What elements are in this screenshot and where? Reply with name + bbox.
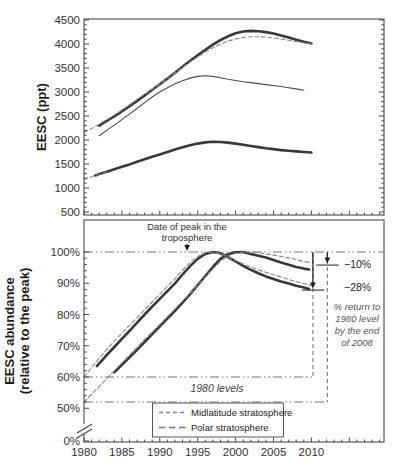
bottom-y-tick-label: 80% bbox=[57, 309, 80, 321]
top-y-tick-label: 2500 bbox=[54, 110, 80, 122]
top-y-tick-label: 1500 bbox=[54, 158, 80, 170]
return-note-line4: of 2008 bbox=[341, 337, 373, 348]
series-polar-stratosphere-dashed bbox=[84, 252, 311, 402]
top-y-tick-label: 3500 bbox=[54, 62, 80, 74]
top-y-axis-title: EESC (ppt) bbox=[34, 83, 49, 151]
drop-polar-label: −10% bbox=[344, 258, 371, 270]
series-midlatitude-stratosphere-dashed bbox=[84, 252, 311, 377]
date-of-peak-arrow-head bbox=[184, 245, 190, 251]
date-of-peak-annotation-line2: troposphere bbox=[162, 232, 213, 243]
bottom-panel-curves bbox=[84, 252, 311, 402]
series-polar-stratosphere-solid bbox=[114, 252, 309, 372]
bottom-y-tick-label: 100% bbox=[51, 246, 80, 258]
bottom-y-tick-label: 60% bbox=[57, 371, 80, 383]
legend-label-midlatitude: Midlatitude stratosphere bbox=[191, 407, 292, 418]
series-polar-stratosphere-dashed bbox=[84, 37, 311, 133]
drop-midlatitude-label: −28% bbox=[344, 281, 371, 293]
bottom-panel-annotations bbox=[184, 244, 339, 402]
eesc-figure: 5001000150020002500300035004000450050%60… bbox=[0, 0, 401, 475]
x-tick-label: 2000 bbox=[223, 446, 249, 458]
drop-arrow-polar-head bbox=[325, 258, 331, 264]
x-tick-label: 1990 bbox=[147, 446, 173, 458]
x-tick-label: 2010 bbox=[299, 446, 325, 458]
top-y-tick-label: 3000 bbox=[54, 86, 80, 98]
top-y-tick-label: 2000 bbox=[54, 134, 80, 146]
return-note-line1: % return to bbox=[334, 301, 380, 312]
return-note-line3: by the end bbox=[335, 325, 380, 336]
top-y-tick-label: 4000 bbox=[54, 38, 80, 50]
series-polar-stratosphere-solid bbox=[99, 31, 311, 126]
return-note-line2: 1980 level bbox=[335, 313, 379, 324]
x-tick-label: 2005 bbox=[261, 446, 287, 458]
bottom-y-tick-label: 90% bbox=[57, 277, 80, 289]
top-panel-border bbox=[84, 19, 384, 215]
series-midlatitude-stratosphere-solid bbox=[97, 252, 309, 366]
series-midlatitude-stratosphere-solid bbox=[95, 142, 311, 176]
x-tick-label: 1995 bbox=[185, 446, 211, 458]
top-y-tick-label: 500 bbox=[61, 206, 80, 218]
date-of-peak-annotation-line1: Date of peak in the bbox=[147, 221, 227, 232]
x-tick-label: 1980 bbox=[71, 446, 97, 458]
bottom-y-tick-label: 70% bbox=[57, 340, 80, 352]
bottom-y-tick-label: 50% bbox=[57, 402, 80, 414]
levels-1980-label: 1980 levels bbox=[190, 382, 244, 394]
bottom-y-axis-title-line2: (relative to the peak) bbox=[17, 268, 32, 394]
top-y-tick-label: 4500 bbox=[54, 14, 80, 26]
top-panel-curves bbox=[84, 31, 311, 179]
legend-label-polar: Polar stratosphere bbox=[191, 422, 269, 433]
figure-container: 5001000150020002500300035004000450050%60… bbox=[0, 0, 401, 475]
bottom-y-axis-title-line1: EESC abundance bbox=[2, 277, 17, 385]
x-tick-label: 1985 bbox=[109, 446, 135, 458]
top-y-tick-label: 1000 bbox=[54, 182, 80, 194]
